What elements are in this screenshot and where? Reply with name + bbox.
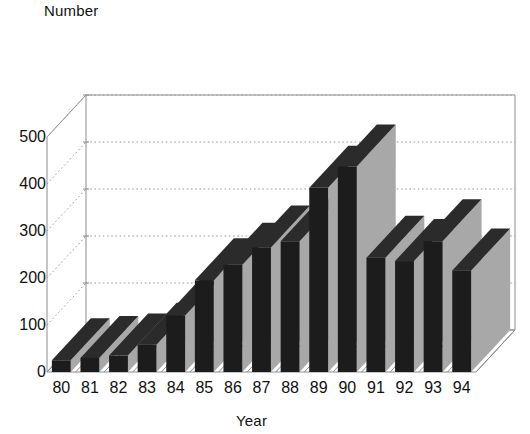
x-tick-label: 88 (275, 380, 305, 396)
x-tick-label: 81 (75, 380, 105, 396)
x-tick-label: 80 (46, 380, 76, 396)
bar-front-face (223, 265, 242, 372)
y-tick-label: 0 (0, 364, 46, 380)
bar-front-face (281, 241, 300, 372)
x-tick-label: 85 (189, 380, 219, 396)
x-tick-label: 86 (218, 380, 248, 396)
y-tick-label: 300 (0, 223, 46, 239)
gridline-depth (47, 283, 86, 325)
bar-front-face (166, 316, 185, 372)
gridline-depth (47, 236, 86, 278)
x-tick-label: 91 (361, 380, 391, 396)
y-tick-label: 200 (0, 270, 46, 286)
bar-front-face (338, 167, 357, 372)
x-tick-label: 83 (132, 380, 162, 396)
bar-front-face (424, 241, 443, 372)
bar-front-face (252, 247, 271, 372)
bar-front-face (80, 358, 99, 372)
bars (52, 125, 510, 372)
x-tick-label: 87 (247, 380, 277, 396)
bar-front-face (452, 270, 471, 372)
chart-root: Number Year 0100200300400500 80818283848… (0, 0, 530, 434)
bar-front-face (309, 188, 328, 372)
x-tick-label: 93 (418, 380, 448, 396)
x-tick-label: 92 (390, 380, 420, 396)
gridline-depth (47, 142, 86, 184)
bar-front-face (195, 280, 214, 372)
x-tick-label: 84 (161, 380, 191, 396)
y-tick-label: 400 (0, 176, 46, 192)
x-tick-label: 82 (104, 380, 134, 396)
y-tick-label: 500 (0, 129, 46, 145)
x-tick-label: 94 (447, 380, 477, 396)
bar-front-face (366, 258, 385, 372)
bar-front-face (52, 360, 71, 372)
bar-front-face (395, 261, 414, 372)
x-tick-label: 89 (304, 380, 334, 396)
plot-area (0, 0, 530, 434)
y-tick-label: 100 (0, 317, 46, 333)
bar-front-face (109, 356, 128, 372)
gridline-depth (47, 189, 86, 231)
x-tick-label: 90 (332, 380, 362, 396)
bar-front-face (138, 345, 157, 372)
